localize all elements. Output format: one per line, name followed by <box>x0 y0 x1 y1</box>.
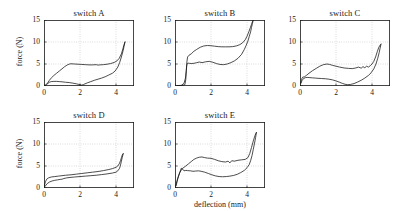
plot-area-switch-d <box>44 122 134 188</box>
xtick-label: 0 <box>34 88 54 97</box>
panel-switch-b: switch B051015024 <box>133 8 265 108</box>
xtick-label: 4 <box>237 88 257 97</box>
panel-title-switch-b: switch B <box>175 8 265 18</box>
curve-loading <box>176 133 257 187</box>
xtick-label: 2 <box>326 88 346 97</box>
ytick-label: 5 <box>151 59 171 68</box>
figure-force-deflection-switches: switch A051015024force (N)switch B051015… <box>0 0 410 211</box>
ytick-label: 10 <box>151 139 171 148</box>
plot-area-switch-e <box>175 122 265 188</box>
panel-switch-a: switch A051015024force (N) <box>2 8 134 108</box>
plot-frame <box>44 20 133 85</box>
curve-loading <box>45 42 125 86</box>
xtick-label: 4 <box>106 190 126 199</box>
xtick-label: 0 <box>165 88 185 97</box>
xtick-label: 2 <box>70 88 90 97</box>
plot-frame <box>44 122 133 187</box>
curve-loading <box>44 154 123 186</box>
xtick-label: 2 <box>201 88 221 97</box>
curve-unloading <box>44 154 123 187</box>
ytick-label: 5 <box>151 161 171 170</box>
ytick-label: 15 <box>151 15 171 24</box>
panel-switch-c: switch C051015024 <box>258 8 390 108</box>
plot-frame <box>300 20 389 85</box>
ytick-label: 10 <box>276 37 296 46</box>
ytick-label: 10 <box>151 37 171 46</box>
panel-switch-d: switch D051015024force (N) <box>2 110 134 210</box>
curve-loading <box>178 20 254 86</box>
plot-area-switch-c <box>300 20 390 86</box>
panel-title-switch-e: switch E <box>175 110 265 120</box>
ytick-label: 15 <box>276 15 296 24</box>
plot-area-switch-b <box>175 20 265 86</box>
xtick-label: 0 <box>290 88 310 97</box>
curve-unloading <box>301 44 381 84</box>
xtick-label: 4 <box>237 190 257 199</box>
xtick-label: 4 <box>362 88 382 97</box>
panel-title-switch-c: switch C <box>300 8 390 18</box>
panel-title-switch-a: switch A <box>44 8 134 18</box>
y-axis-label: force (N) <box>15 19 24 85</box>
xtick-label: 2 <box>70 190 90 199</box>
plot-frame <box>175 122 264 187</box>
x-axis-label: deflection (mm) <box>175 200 265 209</box>
ytick-label: 5 <box>276 59 296 68</box>
plot-area-switch-a <box>44 20 134 86</box>
curve-unloading <box>177 20 254 86</box>
xtick-label: 0 <box>34 190 54 199</box>
ytick-label: 15 <box>151 117 171 126</box>
panel-switch-e: switch E051015024deflection (mm) <box>133 110 265 210</box>
panel-title-switch-d: switch D <box>44 110 134 120</box>
xtick-label: 4 <box>106 88 126 97</box>
xtick-label: 0 <box>165 190 185 199</box>
y-axis-label: force (N) <box>15 121 24 187</box>
xtick-label: 2 <box>201 190 221 199</box>
